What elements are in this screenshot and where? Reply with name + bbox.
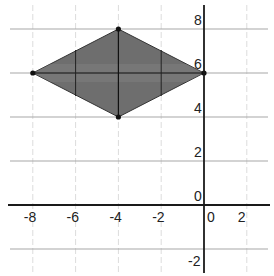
rhombus-shape <box>30 26 206 119</box>
coordinate-plane-chart: -8-6-4-202-202468 <box>0 0 274 276</box>
x-tick-label: -6 <box>67 209 80 225</box>
x-tick-label: 2 <box>238 209 246 225</box>
vertex-point <box>116 26 121 31</box>
x-tick-label: 0 <box>207 209 215 225</box>
x-tick-label: -8 <box>24 209 37 225</box>
y-tick-label: 8 <box>194 12 202 28</box>
y-tick-label: 2 <box>194 144 202 160</box>
x-tick-label: -4 <box>109 209 122 225</box>
y-tick-label: 0 <box>194 188 202 204</box>
y-tick-label: -2 <box>188 253 201 269</box>
y-tick-label: 4 <box>194 100 202 116</box>
y-tick-label: 6 <box>194 56 202 72</box>
vertex-point <box>30 70 35 75</box>
vertex-point <box>116 114 121 119</box>
x-tick-label: -2 <box>152 209 165 225</box>
